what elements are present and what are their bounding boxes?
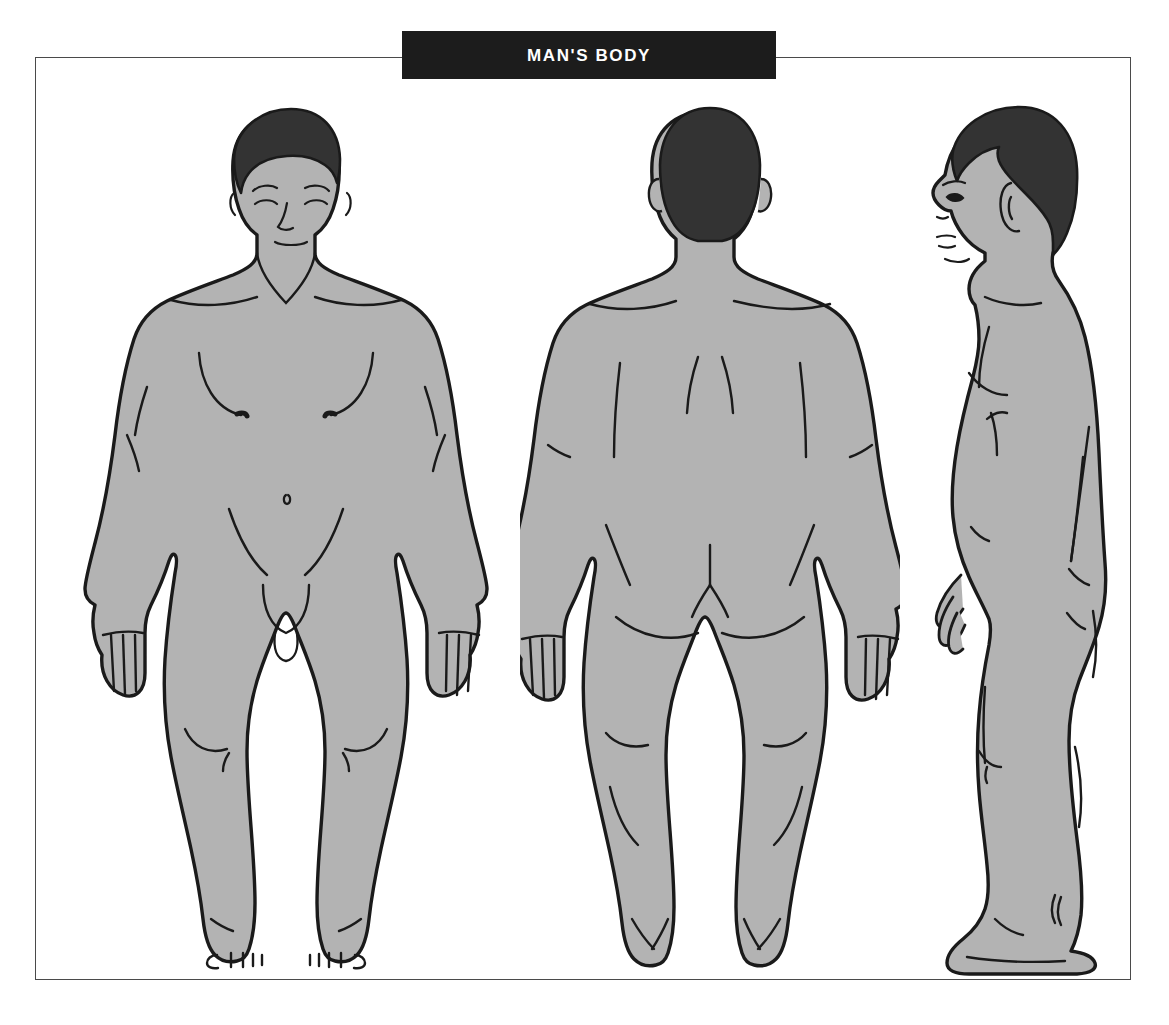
back-hair <box>660 108 760 241</box>
front-hand-details <box>103 632 479 695</box>
front-ear-right <box>346 193 351 215</box>
anatomy-chart-root: MAN'S BODY <box>0 0 1169 1025</box>
front-view-svg <box>81 57 501 980</box>
back-finger-line-right-3 <box>865 639 866 695</box>
front-finger-line-left-3 <box>135 635 136 691</box>
side-view-svg <box>907 57 1131 980</box>
side-body-silhouette <box>933 109 1106 974</box>
figures-area <box>35 57 1131 980</box>
front-finger-line-right-3 <box>446 635 447 691</box>
side-nostril <box>937 217 948 219</box>
side-chin <box>945 259 969 262</box>
figure-side-view[interactable] <box>907 57 1131 980</box>
side-eye <box>947 194 963 201</box>
title-banner: MAN'S BODY <box>402 31 776 79</box>
figure-back-view[interactable] <box>520 57 900 980</box>
side-lips-lower <box>939 246 955 248</box>
front-body-silhouette <box>85 112 487 962</box>
title-banner-label: MAN'S BODY <box>527 47 651 64</box>
back-finger-line-left-3 <box>554 639 555 695</box>
back-view-svg <box>520 57 900 980</box>
back-hand-details <box>522 636 898 699</box>
side-hand <box>936 575 965 653</box>
side-calf <box>1075 747 1081 827</box>
front-genital-lower <box>274 633 297 661</box>
figure-front-view[interactable] <box>81 57 501 980</box>
side-lips-upper <box>937 236 955 238</box>
